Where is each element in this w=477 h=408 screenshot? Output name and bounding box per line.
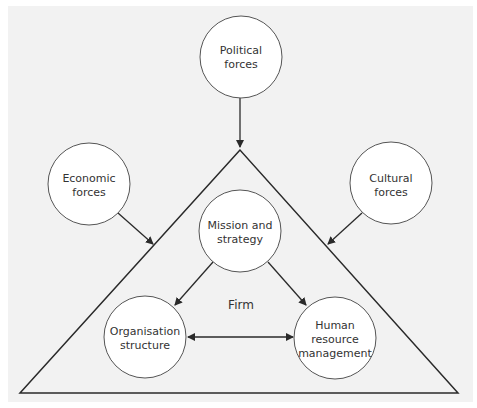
node-label-line1: Mission and <box>208 219 273 232</box>
node-label-line2: forces <box>72 186 106 199</box>
node-organisation-structure: Organisation structure <box>104 296 186 378</box>
node-cultural-forces: Cultural forces <box>350 142 432 224</box>
node-political-forces: Political forces <box>200 16 282 98</box>
node-label-line1: Political <box>220 44 262 57</box>
node-label-line2: structure <box>120 339 170 352</box>
node-human-resource-management: Human resource management <box>294 297 376 379</box>
node-label-line2: forces <box>224 58 258 71</box>
firm-label: Firm <box>228 298 254 312</box>
node-label-line2: resource <box>311 333 359 346</box>
node-mission-and-strategy: Mission and strategy <box>199 190 281 272</box>
node-label-line2: strategy <box>217 233 263 246</box>
node-label-line3: management <box>298 347 372 360</box>
node-economic-forces: Economic forces <box>48 143 130 225</box>
node-label-line1: Economic <box>62 172 115 185</box>
node-label-line1: Cultural <box>369 172 412 185</box>
node-label-line1: Human <box>315 319 355 332</box>
node-label-line2: forces <box>374 186 408 199</box>
node-label-line1: Organisation <box>110 325 180 338</box>
firm-influences-diagram: Political forces Economic forces Cultura… <box>0 0 477 408</box>
